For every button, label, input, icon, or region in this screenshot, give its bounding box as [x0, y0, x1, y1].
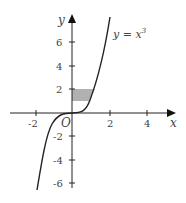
x-tick-label: 4 [144, 118, 150, 129]
x-tick-label: -2 [28, 118, 38, 129]
y-tick-label: 6 [56, 37, 62, 48]
y-tick-label: 2 [56, 84, 62, 95]
y-tick-label: -4 [53, 155, 63, 166]
x-tick-label: 2 [107, 118, 113, 129]
curve-label: y = x3 [112, 27, 147, 41]
y-tick-label: 4 [56, 61, 62, 72]
x-axis-label: x [170, 116, 177, 130]
cubic-curve [37, 17, 110, 190]
y-axis-label: y [57, 13, 65, 27]
graph-figure: -2 2 4 6 4 2 -2 -4 -6 O x y y = x3 [0, 0, 186, 203]
y-axis-arrow-icon [68, 14, 76, 23]
y-tick-label: -6 [53, 178, 63, 189]
y-tick-label: -2 [53, 131, 63, 142]
origin-label: O [61, 116, 71, 130]
graph-svg: -2 2 4 6 4 2 -2 -4 -6 O x y y = x3 [0, 0, 186, 203]
